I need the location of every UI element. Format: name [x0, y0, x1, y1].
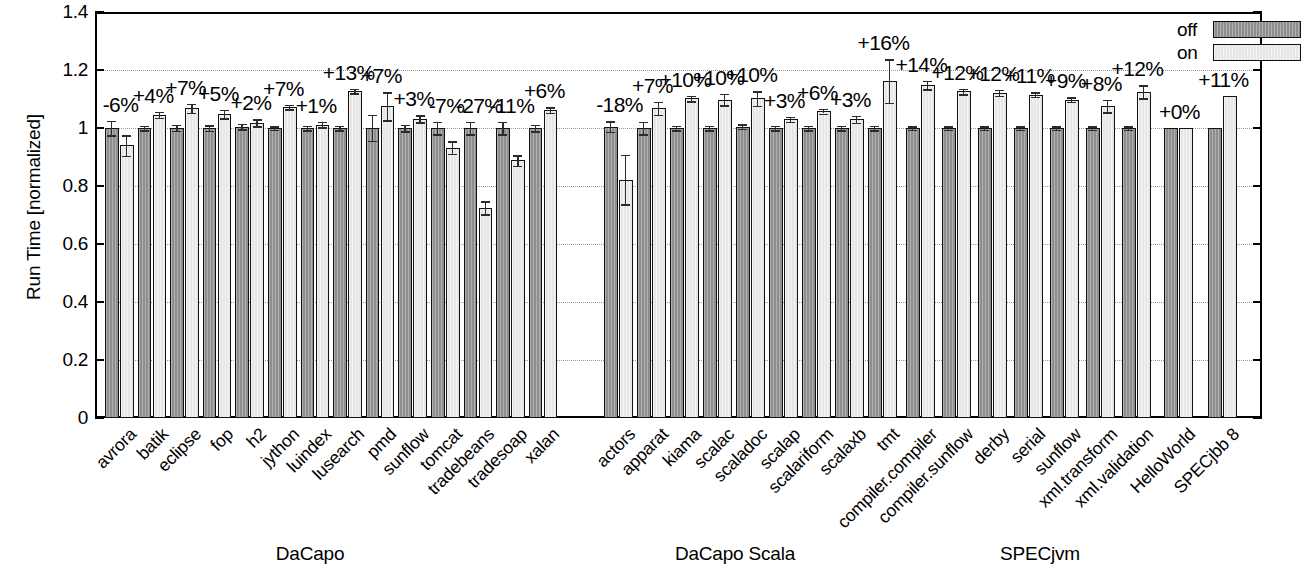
error-bar-cap: [786, 117, 795, 118]
delta-label: +1%: [296, 94, 337, 118]
error-bar-cap: [318, 127, 327, 128]
bar-off: [105, 128, 119, 418]
error-bar-cap: [253, 126, 262, 127]
bar-on: [348, 91, 362, 418]
error-bar-cap: [980, 130, 989, 131]
error-bar: [625, 155, 626, 204]
bar-off: [802, 128, 816, 418]
error-bar-cap: [959, 89, 968, 90]
error-bar-cap: [672, 126, 681, 127]
error-bar-cap: [819, 109, 828, 110]
group-label: DaCapo Scala: [675, 543, 795, 565]
bar-off: [637, 128, 651, 418]
bar-off: [1086, 128, 1100, 418]
error-bar-cap: [238, 124, 247, 125]
y-tick-label: 0.2: [42, 349, 88, 371]
error-bar-cap: [401, 125, 410, 126]
error-bar-cap: [837, 126, 846, 127]
group-label: DaCapo: [276, 543, 345, 565]
bar-on: [479, 208, 493, 418]
error-bar-cap: [498, 134, 507, 135]
x-tick-label: derby: [968, 424, 1013, 469]
error-bar-cap: [738, 129, 747, 130]
error-bar-cap: [220, 110, 229, 111]
error-bar-cap: [350, 93, 359, 94]
bar-off: [333, 128, 347, 418]
bar-off: [868, 128, 882, 418]
bar-off: [906, 128, 920, 418]
delta-label: +9%: [1045, 69, 1086, 93]
error-bar-cap: [1124, 126, 1133, 127]
error-bar-cap: [1016, 130, 1025, 131]
error-bar-cap: [303, 130, 312, 131]
bar-on: [1137, 92, 1151, 418]
error-bar-cap: [786, 122, 795, 123]
error-bar-cap: [546, 107, 555, 108]
bar-on: [185, 108, 199, 418]
bar-on: [1065, 100, 1079, 418]
legend-swatch-on: [1213, 44, 1301, 61]
error-bar-cap: [140, 130, 149, 131]
bar-off: [703, 128, 717, 418]
bar-on: [153, 115, 167, 418]
error-bar: [437, 122, 438, 135]
legend-label-on: on: [1177, 42, 1203, 64]
y-tick-label: 0: [42, 407, 88, 429]
error-bar: [452, 141, 453, 154]
error-bar: [724, 94, 725, 106]
error-bar-cap: [466, 134, 475, 135]
bar-on: [446, 148, 460, 418]
error-bar-cap: [318, 122, 327, 123]
error-bar-cap: [1139, 85, 1148, 86]
error-bar: [517, 155, 518, 165]
error-bar: [658, 102, 659, 115]
error-bar-cap: [253, 119, 262, 120]
bar-off: [670, 128, 684, 418]
bar-off: [769, 128, 783, 418]
error-bar-cap: [1139, 98, 1148, 99]
bar-off: [1014, 128, 1028, 418]
bar-off: [529, 128, 543, 418]
error-bar-cap: [753, 106, 762, 107]
bar-off: [398, 128, 412, 418]
bar-on: [381, 106, 395, 418]
bar-off: [268, 128, 282, 418]
bar-off: [835, 128, 849, 418]
delta-label: +6%: [524, 79, 565, 103]
bar-on: [993, 93, 1007, 418]
error-bar-cap: [448, 154, 457, 155]
error-bar-cap: [687, 96, 696, 97]
delta-label: +16%: [858, 31, 910, 55]
error-bar-cap: [416, 115, 425, 116]
bar-on: [784, 119, 798, 418]
error-bar-cap: [639, 134, 648, 135]
error-bar-cap: [122, 135, 131, 136]
error-bar-cap: [448, 141, 457, 142]
error-bar-cap: [672, 130, 681, 131]
error-bar-cap: [771, 126, 780, 127]
bar-off: [170, 128, 184, 418]
legend-item-on[interactable]: on: [1151, 41, 1301, 64]
error-bar-cap: [606, 121, 615, 122]
bar-on: [1223, 96, 1237, 418]
bar-off: [736, 127, 750, 418]
legend-item-off[interactable]: off: [1151, 18, 1301, 41]
bar-off: [942, 128, 956, 418]
error-bar-cap: [885, 59, 894, 60]
error-bar-cap: [804, 126, 813, 127]
delta-label: +0%: [1159, 100, 1200, 124]
bar-on: [718, 100, 732, 418]
error-bar-cap: [401, 131, 410, 132]
bar-on: [751, 98, 765, 418]
bar-on: [1101, 106, 1115, 418]
error-bar-cap: [187, 104, 196, 105]
error-bar-cap: [995, 90, 1004, 91]
bar-off: [464, 128, 478, 418]
bar-off: [366, 128, 380, 418]
error-bar-cap: [804, 130, 813, 131]
error-bar-cap: [606, 132, 615, 133]
error-bar-cap: [771, 130, 780, 131]
bar-on: [413, 119, 427, 418]
chart-root: Run Time [normalized] 00.20.40.60.811.21…: [0, 0, 1307, 574]
bar-off: [138, 128, 152, 418]
